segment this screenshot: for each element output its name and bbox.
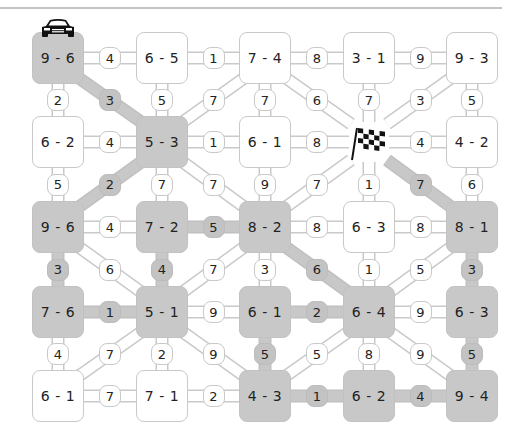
edge-badge-vertical[interactable]: 3 bbox=[461, 259, 483, 281]
checkered-flag-icon bbox=[349, 122, 389, 162]
maze-cell[interactable]: 5 - 1 bbox=[136, 286, 188, 338]
edge-badge-vertical[interactable]: 5 bbox=[151, 89, 173, 111]
edge-badge-vertical[interactable]: 1 bbox=[358, 259, 380, 281]
edge-badge-vertical[interactable]: 3 bbox=[254, 259, 276, 281]
maze-cell[interactable]: 6 - 1 bbox=[239, 286, 291, 338]
edge-badge-diagonal[interactable]: 7 bbox=[306, 174, 328, 196]
maze-cell[interactable]: 3 - 1 bbox=[343, 32, 395, 84]
maze-cell[interactable]: 4 - 3 bbox=[239, 370, 291, 422]
edge-badge-horizontal[interactable]: 9 bbox=[410, 301, 432, 323]
edge-badge-vertical[interactable]: 5 bbox=[47, 174, 69, 196]
edge-badge-diagonal[interactable]: 6 bbox=[99, 259, 121, 281]
edge-badge-horizontal[interactable]: 1 bbox=[306, 385, 328, 407]
edge-badge-diagonal[interactable]: 5 bbox=[410, 259, 432, 281]
edge-badge-horizontal[interactable]: 4 bbox=[99, 216, 121, 238]
edge-badge-diagonal[interactable]: 9 bbox=[203, 343, 225, 365]
maze-cell[interactable]: 6 - 3 bbox=[446, 286, 498, 338]
maze-cell[interactable]: 6 - 1 bbox=[32, 370, 84, 422]
edge-badge-horizontal[interactable]: 7 bbox=[99, 385, 121, 407]
edge-badge-horizontal[interactable]: 4 bbox=[410, 385, 432, 407]
cell-label: 6 - 3 bbox=[455, 304, 489, 320]
edge-badge-horizontal[interactable]: 5 bbox=[203, 216, 225, 238]
maze-cell[interactable]: 7 - 2 bbox=[136, 201, 188, 253]
edge-badge-vertical[interactable]: 5 bbox=[461, 89, 483, 111]
edge-badge-vertical[interactable]: 3 bbox=[47, 259, 69, 281]
maze-cell[interactable]: 9 - 3 bbox=[446, 32, 498, 84]
edge-badge-vertical[interactable]: 1 bbox=[358, 174, 380, 196]
edge-badge-horizontal[interactable]: 9 bbox=[203, 301, 225, 323]
edge-badge-horizontal[interactable]: 9 bbox=[410, 47, 432, 69]
maze-cell[interactable]: 7 - 1 bbox=[136, 370, 188, 422]
edge-badge-vertical[interactable]: 2 bbox=[151, 343, 173, 365]
edge-badge-horizontal[interactable]: 4 bbox=[99, 47, 121, 69]
cell-label: 7 - 4 bbox=[248, 50, 282, 66]
cell-label: 8 - 1 bbox=[455, 219, 489, 235]
maze-cell[interactable]: 9 - 6 bbox=[32, 201, 84, 253]
edge-badge-diagonal[interactable]: 6 bbox=[306, 259, 328, 281]
cell-label: 8 - 2 bbox=[248, 219, 282, 235]
maze-cell[interactable]: 8 - 2 bbox=[239, 201, 291, 253]
edge-badge-horizontal[interactable]: 1 bbox=[203, 131, 225, 153]
maze-cell[interactable]: 9 - 4 bbox=[446, 370, 498, 422]
edge-badge-horizontal[interactable]: 8 bbox=[410, 216, 432, 238]
maze-cell[interactable]: 5 - 3 bbox=[136, 116, 188, 168]
maze-cell[interactable]: 6 - 5 bbox=[136, 32, 188, 84]
edge-badge-horizontal[interactable]: 1 bbox=[99, 301, 121, 323]
cell-label: 9 - 6 bbox=[41, 50, 75, 66]
edge-badge-vertical[interactable]: 9 bbox=[254, 174, 276, 196]
cell-label: 6 - 4 bbox=[352, 304, 386, 320]
edge-badge-diagonal[interactable]: 9 bbox=[410, 343, 432, 365]
maze-cell[interactable]: 7 - 4 bbox=[239, 32, 291, 84]
edge-badge-vertical[interactable]: 7 bbox=[358, 89, 380, 111]
edge-badge-vertical[interactable]: 4 bbox=[47, 343, 69, 365]
cell-label: 6 - 1 bbox=[248, 304, 282, 320]
cell-label: 6 - 5 bbox=[145, 50, 179, 66]
edge-badge-diagonal[interactable]: 6 bbox=[306, 89, 328, 111]
cell-label: 9 - 4 bbox=[455, 388, 489, 404]
maze-cell[interactable]: 6 - 2 bbox=[32, 116, 84, 168]
edge-badge-vertical[interactable]: 5 bbox=[461, 343, 483, 365]
edge-badge-horizontal[interactable]: 2 bbox=[203, 385, 225, 407]
edge-badge-vertical[interactable]: 4 bbox=[151, 259, 173, 281]
finish-cell[interactable] bbox=[343, 116, 395, 168]
cell-label: 4 - 2 bbox=[455, 134, 489, 150]
edge-badge-diagonal[interactable]: 3 bbox=[410, 89, 432, 111]
edge-badge-diagonal[interactable]: 7 bbox=[203, 174, 225, 196]
edge-badge-horizontal[interactable]: 8 bbox=[306, 47, 328, 69]
cell-label: 6 - 1 bbox=[41, 388, 75, 404]
maze-cell[interactable]: 6 - 4 bbox=[343, 286, 395, 338]
edge-badge-vertical[interactable]: 2 bbox=[47, 89, 69, 111]
race-car-icon bbox=[40, 18, 76, 42]
maze-cell[interactable]: 7 - 6 bbox=[32, 286, 84, 338]
edge-badge-diagonal[interactable]: 3 bbox=[99, 89, 121, 111]
edge-badge-vertical[interactable]: 8 bbox=[358, 343, 380, 365]
maze-cell[interactable]: 6 - 1 bbox=[239, 116, 291, 168]
edge-badge-diagonal[interactable]: 7 bbox=[99, 343, 121, 365]
edge-badge-vertical[interactable]: 5 bbox=[254, 343, 276, 365]
edge-badge-diagonal[interactable]: 7 bbox=[203, 89, 225, 111]
edge-badge-vertical[interactable]: 7 bbox=[254, 89, 276, 111]
maze-cell[interactable]: 6 - 3 bbox=[343, 201, 395, 253]
edge-badge-horizontal[interactable]: 4 bbox=[410, 131, 432, 153]
edge-badge-diagonal[interactable]: 7 bbox=[203, 259, 225, 281]
edge-badge-vertical[interactable]: 7 bbox=[151, 174, 173, 196]
edge-badge-diagonal[interactable]: 5 bbox=[306, 343, 328, 365]
cell-label: 7 - 1 bbox=[145, 388, 179, 404]
cell-label: 7 - 6 bbox=[41, 304, 75, 320]
cell-label: 6 - 2 bbox=[41, 134, 75, 150]
edge-badge-horizontal[interactable]: 2 bbox=[306, 301, 328, 323]
maze-cell[interactable]: 4 - 2 bbox=[446, 116, 498, 168]
edge-badge-horizontal[interactable]: 8 bbox=[306, 131, 328, 153]
cell-label: 7 - 2 bbox=[145, 219, 179, 235]
maze-cell[interactable]: 8 - 1 bbox=[446, 201, 498, 253]
maze-cell[interactable]: 6 - 2 bbox=[343, 370, 395, 422]
edge-badge-diagonal[interactable]: 7 bbox=[410, 174, 432, 196]
edge-badge-horizontal[interactable]: 8 bbox=[306, 216, 328, 238]
cell-label: 6 - 1 bbox=[248, 134, 282, 150]
edge-badge-vertical[interactable]: 6 bbox=[461, 174, 483, 196]
edge-badge-diagonal[interactable]: 2 bbox=[99, 174, 121, 196]
cell-label: 9 - 6 bbox=[41, 219, 75, 235]
edge-badge-horizontal[interactable]: 4 bbox=[99, 131, 121, 153]
edge-badge-horizontal[interactable]: 1 bbox=[203, 47, 225, 69]
